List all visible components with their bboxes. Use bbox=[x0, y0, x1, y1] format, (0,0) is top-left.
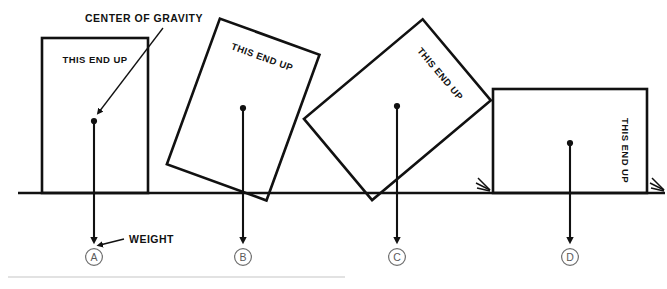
box-a-caption: THIS END UP bbox=[62, 54, 127, 65]
box-d-caption: THIS END UP bbox=[620, 118, 631, 183]
center-of-gravity-leader bbox=[99, 28, 163, 112]
physics-diagram: THIS END UP A THIS END UP B THIS END UP bbox=[0, 0, 667, 289]
case-label-d: D bbox=[566, 251, 574, 263]
case-b: THIS END UP B bbox=[167, 19, 320, 266]
case-label-a: A bbox=[90, 251, 97, 263]
center-of-gravity-label: CENTER OF GRAVITY bbox=[85, 12, 203, 24]
weight-leader bbox=[100, 239, 124, 245]
box-b-caption: THIS END UP bbox=[230, 41, 295, 74]
weight-label: WEIGHT bbox=[129, 233, 174, 245]
case-label-b: B bbox=[239, 251, 246, 263]
hatch-marks-right bbox=[650, 178, 664, 191]
hatch-marks-left bbox=[476, 178, 490, 191]
case-label-c: C bbox=[393, 251, 401, 263]
box-c-caption: THIS END UP bbox=[415, 45, 465, 102]
diagram-canvas: THIS END UP A THIS END UP B THIS END UP bbox=[0, 0, 667, 289]
case-c: THIS END UP C bbox=[304, 19, 491, 265]
case-d: THIS END UP D bbox=[476, 89, 664, 265]
case-a: THIS END UP A bbox=[42, 38, 148, 265]
